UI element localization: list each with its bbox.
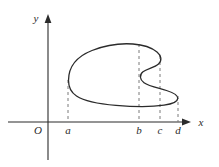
x-axis-arrowhead — [182, 119, 191, 126]
x-axis-label: x — [198, 116, 204, 128]
origin-label: O — [34, 124, 42, 136]
y-axis-arrowhead — [45, 14, 52, 23]
figure-container: y x O a b c d — [0, 0, 219, 167]
tick-label-a: a — [65, 124, 71, 136]
y-axis-label: y — [33, 12, 39, 24]
coordinate-plot: y x O a b c d — [0, 0, 219, 167]
tick-label-b: b — [136, 124, 142, 136]
tick-label-d: d — [175, 124, 181, 136]
closed-curve — [69, 44, 178, 107]
tick-label-c: c — [158, 124, 163, 136]
